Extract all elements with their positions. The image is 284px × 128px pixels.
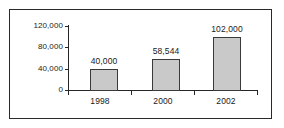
- bar-2000: [152, 59, 180, 91]
- y-axis-tick: [65, 47, 69, 48]
- bar-value-label-2002: 102,000: [197, 25, 257, 34]
- y-axis-tick: [65, 26, 69, 27]
- x-axis-tick: [131, 91, 132, 95]
- x-axis-tick: [68, 91, 69, 95]
- x-axis-tick: [194, 91, 195, 95]
- bar-chart-figure: 120,000 80,000 40,000 0 40,000 1998 58,5…: [0, 0, 284, 128]
- y-axis-line: [68, 25, 69, 91]
- x-category-label-2000: 2000: [133, 97, 193, 106]
- bar-1998: [90, 69, 118, 91]
- y-axis-tick: [65, 69, 69, 70]
- x-axis-tick: [257, 91, 258, 95]
- y-axis-tick-label: 0: [58, 86, 63, 94]
- x-category-label-1998: 1998: [70, 97, 130, 106]
- bar-value-label-1998: 40,000: [74, 57, 134, 66]
- x-category-label-2002: 2002: [196, 97, 256, 106]
- y-axis-tick-label: 40,000: [38, 65, 63, 73]
- y-axis-tick-label: 120,000: [33, 22, 63, 30]
- plot-area: 120,000 80,000 40,000 0 40,000 1998 58,5…: [0, 0, 284, 128]
- bar-2002: [213, 37, 241, 91]
- bar-value-label-2000: 58,544: [136, 47, 196, 56]
- y-axis-tick-label: 80,000: [38, 43, 63, 51]
